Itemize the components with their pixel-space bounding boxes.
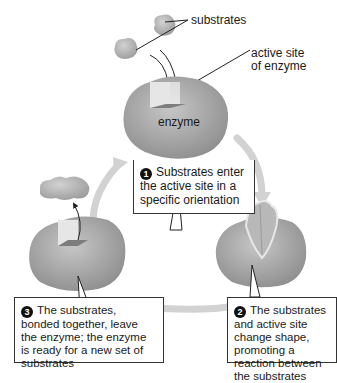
step-1-callout: 1Substrates enter the active site in a s… (133, 160, 255, 214)
step-1-text: Substrates enter the active site in a sp… (140, 165, 244, 207)
step-3-number: 3 (21, 306, 33, 318)
product-molecule (40, 176, 89, 200)
substrates-label: substrates (191, 14, 246, 27)
enzyme-state-3 (29, 216, 125, 291)
step-2-number: 2 (234, 306, 246, 318)
step-2-callout: 2The substrates and active site change s… (227, 297, 337, 363)
substrate-molecules-top (114, 15, 175, 59)
step-3-text: The substrates, bonded together, leave t… (21, 304, 146, 369)
enzyme-label: enzyme (158, 116, 200, 129)
active-site-label-line2: of enzyme (251, 60, 306, 73)
enzyme-state-2 (216, 201, 306, 287)
step-3-callout: 3The substrates, bonded together, leave … (14, 297, 164, 363)
